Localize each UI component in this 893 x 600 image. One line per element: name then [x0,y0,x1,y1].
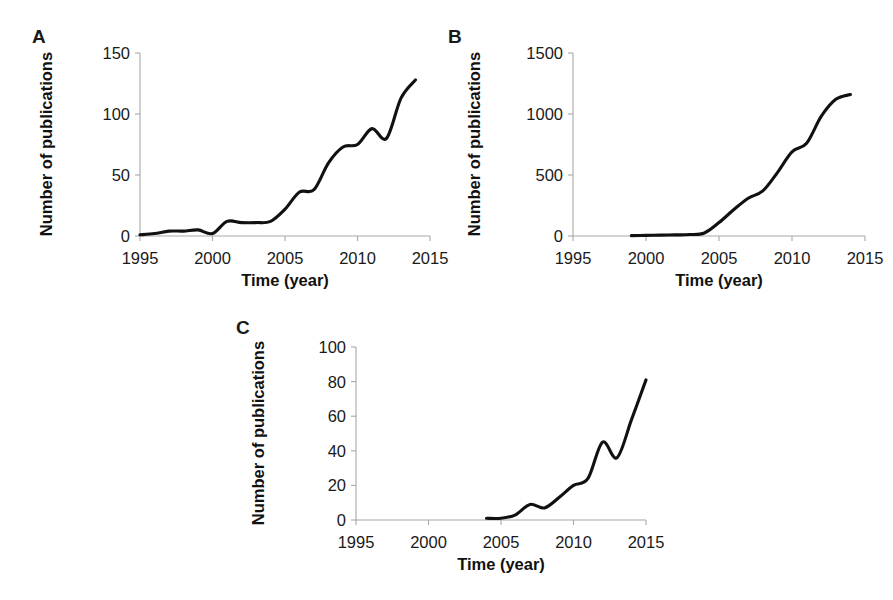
chart-b-svg: 05001000150019952000200520102015Time (ye… [440,18,885,318]
x-tick-label: 2015 [628,533,665,551]
x-tick-label: 2010 [774,249,811,267]
y-tick-label: 60 [328,407,346,425]
y-tick-label: 50 [112,166,130,184]
x-tick-label: 2005 [483,533,520,551]
x-tick-label: 2000 [628,249,665,267]
y-tick-label: 100 [318,338,346,356]
x-tick-label: 2000 [410,533,447,551]
y-tick-label: 150 [102,44,130,62]
x-axis-title: Time (year) [675,271,763,289]
chart-panel-a: A 05010015019952000200520102015Time (yea… [18,18,448,318]
y-tick-label: 0 [337,511,346,529]
x-tick-label: 2005 [701,249,738,267]
x-axis-title: Time (year) [241,271,329,289]
data-series-line [487,380,647,519]
x-tick-label: 2010 [339,249,376,267]
y-tick-label: 1000 [526,105,563,123]
data-series-line [140,80,416,235]
y-axis-title: Number of publications [249,341,267,525]
chart-a-svg: 05010015019952000200520102015Time (year)… [18,18,448,318]
chart-panel-b: B 05001000150019952000200520102015Time (… [440,18,885,318]
y-tick-label: 20 [328,476,346,494]
data-series-line [631,94,850,235]
y-axis-title: Number of publications [37,52,55,236]
chart-c-svg: 02040608010019952000200520102015Time (ye… [228,312,668,600]
y-tick-label: 500 [535,166,563,184]
y-tick-label: 0 [121,227,130,245]
y-tick-label: 40 [328,442,346,460]
x-tick-label: 1995 [555,249,592,267]
publications-figure: A 05010015019952000200520102015Time (yea… [0,0,893,600]
y-axis-title: Number of publications [465,52,483,236]
x-tick-label: 2000 [194,249,231,267]
x-tick-label: 1995 [338,533,375,551]
chart-panel-c: C 02040608010019952000200520102015Time (… [228,312,668,600]
y-tick-label: 1500 [526,44,563,62]
x-tick-label: 2005 [267,249,304,267]
y-tick-label: 0 [554,227,563,245]
x-tick-label: 1995 [122,249,159,267]
y-tick-label: 100 [102,105,130,123]
x-axis-title: Time (year) [457,555,545,573]
y-tick-label: 80 [328,373,346,391]
x-tick-label: 2010 [555,533,592,551]
x-tick-label: 2015 [847,249,884,267]
